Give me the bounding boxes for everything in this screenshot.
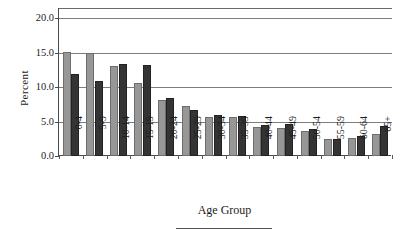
bar: [158, 100, 166, 156]
bar: [229, 117, 237, 156]
x-tick-label: 20-24: [169, 116, 179, 160]
bar: [253, 127, 261, 156]
x-tick-label: 0-4: [74, 116, 84, 160]
bar: [86, 53, 94, 156]
x-tick-label: 25-29: [193, 116, 203, 160]
footer-divider: [176, 228, 272, 229]
x-tick-label: 10-14: [121, 116, 131, 160]
x-tick-label: 5-9: [98, 116, 108, 160]
bar: [324, 139, 332, 156]
x-tick-label: 55-59: [336, 116, 346, 160]
x-axis-title: Age Group: [58, 203, 391, 218]
y-tick-label: 5.0: [18, 117, 54, 127]
x-tick-label: 15-19: [145, 116, 155, 160]
x-tick-label: 40-44: [264, 116, 274, 160]
bar: [372, 134, 380, 156]
bar: [205, 117, 213, 156]
x-axis-tick-labels: 0-45-910-1415-1920-2425-2930-3435-3940-4…: [58, 160, 391, 204]
y-tick-label: 0.0: [18, 151, 54, 161]
x-tick-label: 65+: [383, 116, 393, 160]
bar-chart-figure: Percent 0.05.010.015.020.0 0-45-910-1415…: [0, 0, 402, 235]
bar: [348, 138, 356, 156]
x-tick-label: 45-49: [288, 116, 298, 160]
bar: [301, 131, 309, 156]
bar: [182, 106, 190, 156]
x-tick-label: 30-34: [217, 116, 227, 160]
bar: [277, 128, 285, 156]
x-tick-label: 60-64: [359, 116, 369, 160]
y-tick-label: 10.0: [18, 82, 54, 92]
bar: [134, 83, 142, 156]
bar: [63, 52, 71, 156]
x-tick-label: 50-54: [312, 116, 322, 160]
y-tick-label: 15.0: [18, 48, 54, 58]
y-tick-label: 20.0: [18, 13, 54, 23]
bar: [110, 66, 118, 156]
x-tick-label: 35-39: [240, 116, 250, 160]
y-axis-tick-labels: 0.05.010.015.020.0: [18, 0, 54, 235]
